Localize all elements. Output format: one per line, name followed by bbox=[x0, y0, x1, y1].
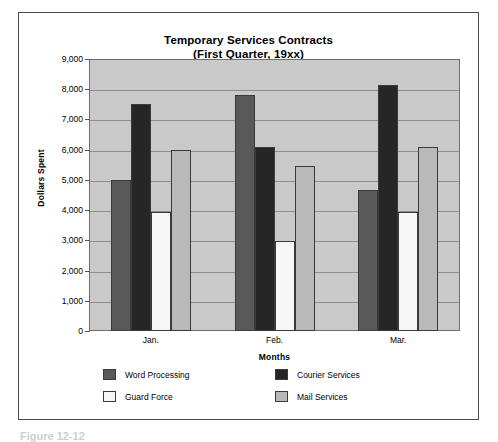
legend-item: Word Processing bbox=[103, 369, 190, 380]
y-axis-tick-label: 8,000 bbox=[37, 85, 83, 93]
x-axis-tick-label: Jan. bbox=[89, 335, 213, 345]
legend-swatch bbox=[275, 369, 288, 380]
y-axis-tick-mark bbox=[85, 301, 90, 302]
y-axis-tick-label: 2,000 bbox=[37, 267, 83, 275]
bar bbox=[151, 212, 171, 331]
bar bbox=[171, 150, 191, 331]
legend-swatch bbox=[103, 369, 116, 380]
x-axis-title: Months bbox=[89, 352, 460, 362]
y-axis-tick-label: 5,000 bbox=[37, 176, 83, 184]
y-axis-tick-mark bbox=[85, 331, 90, 332]
bar bbox=[131, 104, 151, 331]
bar bbox=[295, 166, 315, 331]
y-axis-tick-label: 6,000 bbox=[37, 146, 83, 154]
legend-item: Guard Force bbox=[103, 391, 173, 402]
y-axis-tick-label: 1,000 bbox=[37, 297, 83, 305]
bar bbox=[358, 190, 378, 331]
figure-caption: Figure 12-12 bbox=[20, 430, 85, 442]
y-axis-tick-mark bbox=[85, 271, 90, 272]
bar bbox=[235, 95, 255, 331]
x-axis-tick-label: Feb. bbox=[213, 335, 337, 345]
plot-wrapper: Dollars Spent 9,0008,0007,0006,0005,0004… bbox=[19, 13, 480, 421]
y-axis-tick-label: 7,000 bbox=[37, 115, 83, 123]
legend-label: Word Processing bbox=[125, 370, 190, 380]
bar bbox=[111, 180, 131, 331]
bar bbox=[418, 147, 438, 331]
legend-label: Mail Services bbox=[297, 392, 348, 402]
legend-swatch bbox=[275, 391, 288, 402]
bar bbox=[255, 147, 275, 331]
legend-swatch bbox=[103, 391, 116, 402]
bar bbox=[275, 241, 295, 331]
y-axis-tick-label: 9,000 bbox=[37, 55, 83, 63]
y-axis-tick-label: 0 bbox=[37, 327, 83, 335]
y-axis-tick-mark bbox=[85, 89, 90, 90]
chart-legend: Word ProcessingCourier ServicesGuard For… bbox=[103, 369, 433, 413]
y-axis-tick-label: 3,000 bbox=[37, 236, 83, 244]
legend-item: Mail Services bbox=[275, 391, 348, 402]
bar bbox=[398, 212, 418, 331]
y-axis-tick-mark bbox=[85, 210, 90, 211]
x-axis-tick-labels: Jan.Feb.Mar. bbox=[89, 335, 460, 349]
legend-item: Courier Services bbox=[275, 369, 360, 380]
bar bbox=[378, 85, 398, 331]
y-axis-tick-labels: 9,0008,0007,0006,0005,0004,0003,0002,000… bbox=[37, 59, 87, 331]
legend-label: Courier Services bbox=[297, 370, 360, 380]
y-axis-tick-label: 4,000 bbox=[37, 206, 83, 214]
x-axis-tick-label: Mar. bbox=[336, 335, 460, 345]
y-axis-tick-mark bbox=[85, 150, 90, 151]
legend-label: Guard Force bbox=[125, 392, 173, 402]
y-axis-tick-mark bbox=[85, 180, 90, 181]
y-axis-tick-mark bbox=[85, 119, 90, 120]
figure-frame: Temporary Services Contracts (First Quar… bbox=[18, 12, 479, 420]
y-axis-tick-mark bbox=[85, 59, 90, 60]
bars-layer bbox=[89, 59, 460, 331]
y-axis-tick-mark bbox=[85, 240, 90, 241]
